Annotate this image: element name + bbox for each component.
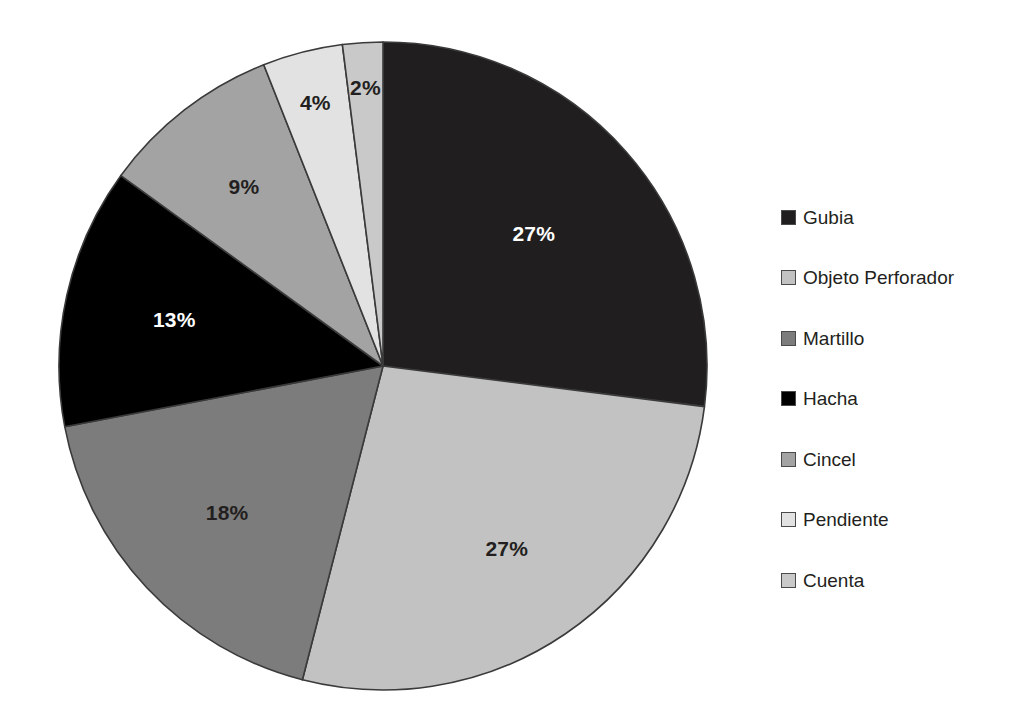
pie-chart-graphic: 27%27%18%13%9%4%2% bbox=[58, 41, 708, 691]
pie-data-label: 2% bbox=[350, 76, 381, 99]
pie-data-label: 9% bbox=[229, 175, 260, 198]
legend-item[interactable]: Pendiente bbox=[781, 508, 1006, 532]
legend-item[interactable]: Cincel bbox=[781, 447, 1006, 471]
legend-item[interactable]: Hacha bbox=[781, 387, 1006, 411]
legend-item[interactable]: Objeto Perforador bbox=[781, 266, 1006, 290]
pie-data-label: 4% bbox=[300, 91, 331, 114]
legend-item-label: Hacha bbox=[803, 389, 858, 408]
legend-item[interactable]: Cuenta bbox=[781, 568, 1006, 592]
legend-item-label: Gubia bbox=[803, 208, 854, 227]
legend-swatch-icon bbox=[781, 270, 796, 285]
legend-swatch-icon bbox=[781, 573, 796, 588]
legend-swatch-icon bbox=[781, 331, 796, 346]
pie-data-label: 27% bbox=[485, 537, 528, 560]
pie-data-label: 13% bbox=[153, 308, 196, 331]
legend-item-label: Cuenta bbox=[803, 571, 864, 590]
legend-item[interactable]: Gubia bbox=[781, 205, 1006, 229]
legend-item-label: Cincel bbox=[803, 450, 856, 469]
pie-data-label: 18% bbox=[206, 501, 249, 524]
pie-slice-group bbox=[59, 42, 707, 690]
legend-item[interactable]: Martillo bbox=[781, 326, 1006, 350]
legend-swatch-icon bbox=[781, 210, 796, 225]
pie-data-label: 27% bbox=[512, 222, 555, 245]
legend-item-label: Objeto Perforador bbox=[803, 268, 954, 287]
legend-item-label: Martillo bbox=[803, 329, 864, 348]
pie-chart-figure: 27%27%18%13%9%4%2% GubiaObjeto Perforado… bbox=[0, 0, 1009, 719]
legend-item-label: Pendiente bbox=[803, 510, 889, 529]
legend-swatch-icon bbox=[781, 391, 796, 406]
chart-legend: GubiaObjeto PerforadorMartilloHachaCince… bbox=[781, 205, 1006, 629]
legend-swatch-icon bbox=[781, 512, 796, 527]
pie-svg: 27%27%18%13%9%4%2% bbox=[58, 41, 708, 691]
legend-swatch-icon bbox=[781, 452, 796, 467]
